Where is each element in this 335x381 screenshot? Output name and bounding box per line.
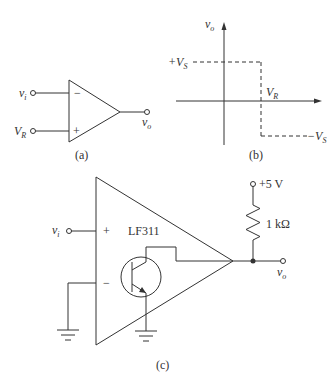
minus-sign: −: [74, 86, 81, 100]
panel-a-op-amp: − + vi VR vo (a): [14, 80, 151, 162]
vo-terminal: [145, 110, 150, 115]
ground-icon: [57, 330, 79, 340]
minus-vs-label: −VS: [307, 129, 326, 145]
caption-a: (a): [75, 148, 88, 162]
minus-sign-c: −: [103, 276, 110, 290]
x-axis-arrow-icon: [314, 99, 322, 104]
supply-terminal: [251, 182, 256, 187]
vi-label-c: vi: [52, 223, 60, 239]
vo-label-c: vo: [277, 265, 286, 281]
resistor-icon: [246, 205, 260, 240]
y-axis-arrow-icon: [222, 22, 227, 30]
vr-terminal: [31, 129, 36, 134]
vo-axis-label: vo: [205, 17, 214, 33]
ic-label: LF311: [128, 224, 160, 238]
plus-sign: +: [73, 124, 80, 138]
panel-c-lf311-circuit: vi + − LF311: [52, 177, 290, 372]
supply-label: +5 V: [259, 177, 284, 191]
vr-threshold-label: VR: [266, 85, 278, 101]
vo-terminal-c: [281, 259, 286, 264]
vi-terminal: [31, 91, 36, 96]
npn-transistor-icon: [121, 247, 161, 331]
vo-label: vo: [142, 115, 151, 131]
plus-vs-label: +VS: [168, 55, 187, 71]
caption-b: (b): [249, 148, 263, 162]
collector-wire: [146, 247, 233, 261]
comparator-figure: − + vi VR vo (a) vo +VS VR −VS (b) vi + …: [0, 0, 335, 381]
vi-terminal-c: [67, 229, 72, 234]
vr-label: VR: [14, 124, 26, 140]
ground-icon: [135, 331, 157, 341]
caption-c: (c): [156, 358, 169, 372]
plus-sign-c: +: [103, 224, 110, 238]
panel-b-transfer-characteristic: vo +VS VR −VS (b): [168, 17, 326, 162]
vi-label: vi: [19, 86, 27, 102]
resistor-label: 1 kΩ: [266, 217, 290, 231]
